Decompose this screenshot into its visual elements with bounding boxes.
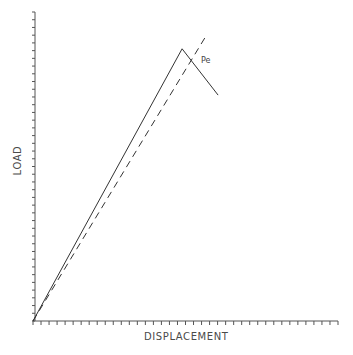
axes: [33, 12, 338, 321]
data-series: [33, 38, 218, 321]
x-axis-label: DISPLACEMENT: [144, 331, 229, 342]
load-displacement-chart: [0, 0, 353, 355]
y-axis-label: LOAD: [12, 141, 23, 181]
dashed-series-line: [33, 38, 205, 321]
axis-ticks: [32, 12, 338, 325]
solid-series-line: [33, 49, 218, 321]
pe-annotation: Pe: [201, 56, 210, 65]
